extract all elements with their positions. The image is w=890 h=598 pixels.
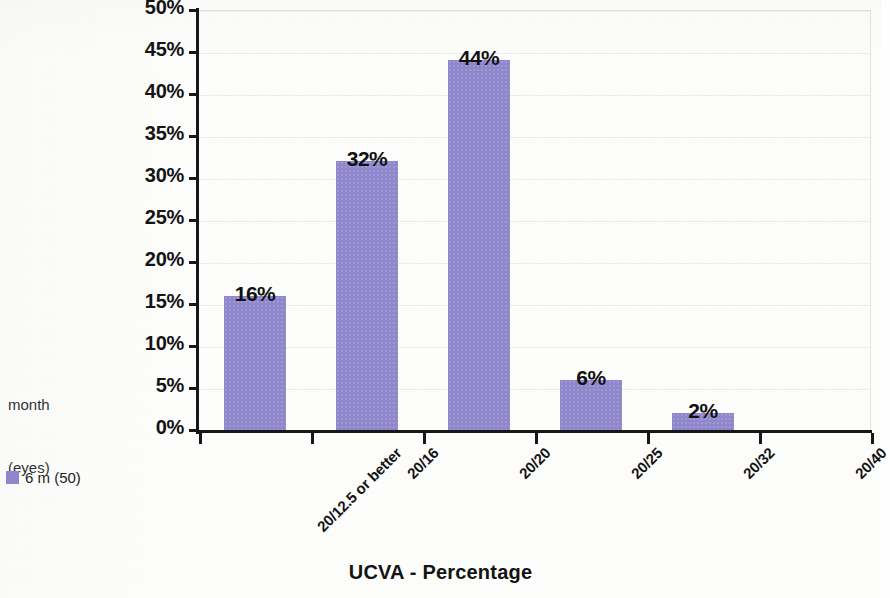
y-axis-tick (189, 219, 199, 222)
gridline (199, 347, 870, 348)
y-axis-tick-label: 35% (122, 122, 184, 145)
x-axis-tick (647, 433, 650, 444)
bar-value-label: 32% (307, 147, 427, 171)
gridline (199, 95, 870, 96)
y-axis-tick-label: 40% (122, 80, 184, 103)
bar (336, 161, 398, 430)
gridline (199, 221, 870, 222)
gridline (199, 11, 870, 12)
y-axis-tick-label: 5% (122, 374, 184, 397)
y-axis-tick-label: 0% (122, 416, 184, 439)
bar-value-label: 44% (419, 46, 539, 70)
axis-caption: month (eyes) (8, 352, 50, 520)
y-axis-tick-label: 45% (122, 38, 184, 61)
y-axis-tick (189, 177, 199, 180)
y-axis-tick (189, 261, 199, 264)
y-axis-tick (189, 429, 199, 432)
y-axis-tick-label: 15% (122, 290, 184, 313)
x-axis-tick (311, 433, 314, 444)
chart-legend: 6 m (50) (6, 469, 81, 486)
x-axis-category-label: 20/12.5 or better (314, 444, 405, 535)
gridline (199, 179, 870, 180)
gridline (199, 137, 870, 138)
y-axis-tick (189, 51, 199, 54)
y-axis-tick-label: 25% (122, 206, 184, 229)
y-axis-tick-label: 50% (122, 0, 184, 19)
y-axis-tick (189, 93, 199, 96)
x-axis-category-label: 20/32 (740, 444, 778, 482)
y-axis-tick-label: 20% (122, 248, 184, 271)
axis-caption-line1: month (8, 394, 50, 415)
x-axis-category-label: 20/40 (852, 444, 890, 482)
x-axis-line (196, 430, 872, 433)
y-axis-labels: 0%5%10%15%20%25%30%35%40%45%50% (122, 0, 184, 598)
bar (224, 296, 286, 430)
x-axis-tick (423, 433, 426, 444)
x-axis-tick (871, 433, 874, 444)
bar-value-label: 6% (531, 366, 651, 390)
x-axis-tick (199, 433, 202, 444)
y-axis-tick-label: 10% (122, 332, 184, 355)
y-axis-tick (189, 135, 199, 138)
bar-value-label: 16% (195, 282, 315, 306)
bar-value-label: 2% (643, 399, 763, 423)
x-axis-tick (535, 433, 538, 444)
bar (448, 60, 510, 430)
y-axis-tick-label: 30% (122, 164, 184, 187)
x-axis-tick (759, 433, 762, 444)
y-axis-tick (189, 9, 199, 12)
legend-swatch-icon (6, 471, 19, 484)
y-axis-tick (189, 387, 199, 390)
x-axis-category-label: 20/20 (516, 444, 554, 482)
chart-title: UCVA - Percentage (0, 561, 881, 584)
x-axis-category-label: 20/16 (404, 444, 442, 482)
gridline (199, 263, 870, 264)
y-axis-tick (189, 345, 199, 348)
legend-label: 6 m (50) (25, 469, 81, 486)
x-axis-category-label: 20/25 (628, 444, 666, 482)
